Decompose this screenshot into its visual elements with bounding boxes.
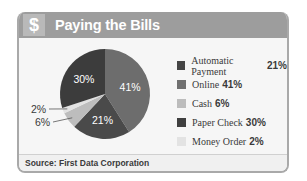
chart-card: $ Paying the Bills 41%21%6%2%30% Automat… — [17, 12, 289, 173]
legend-swatch — [177, 99, 186, 108]
legend-item: Paper Check30% — [177, 113, 287, 132]
legend-value: 6% — [215, 98, 229, 109]
legend-value: 30% — [246, 117, 266, 128]
source-note: Source: First Data Corporation — [19, 154, 287, 171]
slice-label: 2% — [31, 103, 46, 115]
chart-legend: Automatic Payment21%Online41%Cash6%Paper… — [177, 56, 287, 151]
legend-item: Cash6% — [177, 94, 287, 113]
slice-label: 6% — [35, 116, 50, 128]
legend-label: Cash — [192, 98, 212, 109]
legend-value: 2% — [249, 136, 263, 147]
legend-label: Money Order — [192, 136, 246, 147]
legend-value: 41% — [222, 79, 242, 90]
legend-swatch — [177, 80, 186, 89]
legend-swatch — [177, 137, 186, 146]
legend-item: Automatic Payment21% — [177, 56, 287, 75]
legend-swatch — [177, 118, 186, 127]
legend-label: Online — [192, 79, 219, 90]
legend-item: Money Order2% — [177, 132, 287, 151]
legend-swatch — [177, 61, 185, 70]
slice-label: 30% — [73, 73, 94, 85]
slice-label: 21% — [92, 114, 113, 126]
legend-item: Online41% — [177, 75, 287, 94]
legend-value: 21% — [267, 60, 287, 71]
legend-label: Paper Check — [192, 117, 243, 128]
legend-label: Automatic Payment — [191, 55, 264, 77]
slice-label: 41% — [120, 81, 141, 93]
